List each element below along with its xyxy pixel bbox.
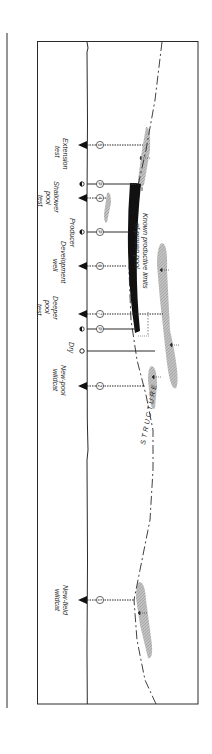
flag-icon — [78, 194, 87, 202]
svg-text:Developmentwell: Developmentwell — [51, 241, 68, 284]
oil-well-classification-diagram: 5 Extensiontest P 4 Shallowerpooltest P … — [0, 0, 212, 754]
svg-text:New-fieldwildcat: New-fieldwildcat — [53, 585, 70, 616]
svg-text:7: 7 — [97, 313, 103, 316]
flag-icon — [78, 310, 87, 318]
svg-text:4: 4 — [97, 197, 103, 200]
svg-text:Producer: Producer — [68, 218, 77, 248]
well-producer-edge: P — [80, 325, 136, 332]
reservoir-lens-deep — [157, 243, 178, 388]
well-deeper-pool-test: 7 Deeperpooltest — [35, 296, 163, 320]
dry-hole-icon — [80, 349, 84, 353]
flag-icon — [78, 141, 87, 149]
svg-text:5: 5 — [97, 144, 103, 147]
flag-icon — [78, 262, 87, 270]
reservoir-lens-shallow — [104, 192, 111, 222]
svg-text:Deeperpooltest: Deeperpooltest — [35, 296, 60, 320]
reservoir-lens-newfield — [136, 582, 152, 658]
well-extension-test: 5 Extensiontest — [53, 138, 143, 170]
svg-text:New-poolwildcat: New-poolwildcat — [51, 365, 68, 396]
well-new-pool-wildcat: 2 New-poolwildcat — [51, 365, 145, 396]
ground-surface-line — [87, 42, 88, 704]
flag-icon — [78, 596, 87, 604]
well-development: 6 Developmentwell — [51, 241, 126, 284]
svg-text:Extensiontest: Extensiontest — [53, 138, 70, 170]
well-dry: Dry — [67, 342, 155, 354]
well-shallower-pool-test: 4 Shallowerpooltest — [36, 181, 106, 213]
flag-icon — [78, 382, 87, 390]
svg-text:Dry: Dry — [67, 342, 76, 354]
well-producer-shallow: P — [80, 180, 136, 187]
svg-text:Shallowerpooltest: Shallowerpooltest — [36, 181, 61, 213]
svg-text:2: 2 — [97, 385, 103, 388]
well-producer: P Producer — [68, 218, 129, 248]
structure-label: STRUCTURE — [139, 382, 158, 445]
well-new-field-wildcat: 1 New-fieldwildcat — [53, 585, 135, 616]
svg-text:1: 1 — [97, 599, 103, 602]
svg-text:6: 6 — [97, 265, 103, 268]
